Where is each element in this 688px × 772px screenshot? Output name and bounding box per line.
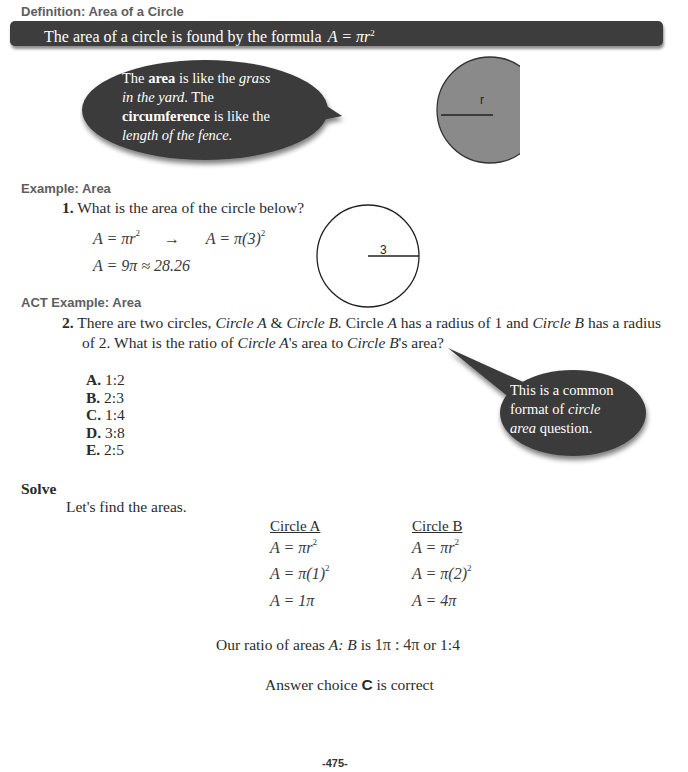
example-circle-figure [312, 202, 424, 308]
shaded-circle-icon [437, 57, 520, 163]
answer-choices: A. 1:2 B. 2:3 C. 1:4 D. 3:8 E. 2:5 [86, 371, 125, 459]
solve-intro: Let's find the areas. [66, 498, 187, 516]
callout-format-text: This is a common format of circle area q… [510, 381, 650, 438]
callout-area-text: The area is like the grass in the yard. … [122, 69, 322, 145]
definition-heading: Definition: Area of a Circle [21, 4, 184, 19]
solve-heading: Solve [21, 480, 56, 498]
example-question: 1. What is the area of the circle below? [62, 199, 304, 217]
page-number: -475- [322, 757, 348, 769]
circle-a-title: Circle A [270, 518, 329, 535]
definition-formula: A = πr2 [328, 28, 375, 45]
example-step-1: A = πr2 → A = π(3)2 [93, 230, 265, 248]
circle-b-title: Circle B [412, 518, 471, 535]
answer-statement: Answer choice C is correct [265, 676, 434, 694]
circle-b-work: Circle B A = πr2 A = π(2)2 A = 4π [412, 518, 471, 610]
example-step-2: A = 9π ≈ 28.26 [93, 257, 190, 275]
radius-label-r: r [480, 93, 484, 107]
example-heading: Example: Area [21, 181, 111, 196]
choice-d[interactable]: D. 3:8 [86, 424, 125, 442]
circle-a-work: Circle A A = πr2 A = π(1)2 A = 1π [270, 518, 329, 610]
choice-a[interactable]: A. 1:2 [86, 371, 125, 389]
choice-c[interactable]: C. 1:4 [86, 406, 125, 424]
definition-text: The area of a circle is found by the for… [44, 28, 322, 45]
radius-label-3: 3 [380, 243, 387, 257]
choice-b[interactable]: B. 2:3 [86, 389, 125, 407]
definition-bar: The area of a circle is found by the for… [10, 21, 663, 46]
act-example-heading: ACT Example: Area [21, 295, 141, 310]
ratio-statement: Our ratio of areas A: B is 1π : 4π or 1:… [216, 636, 460, 654]
choice-e[interactable]: E. 2:5 [86, 441, 125, 459]
